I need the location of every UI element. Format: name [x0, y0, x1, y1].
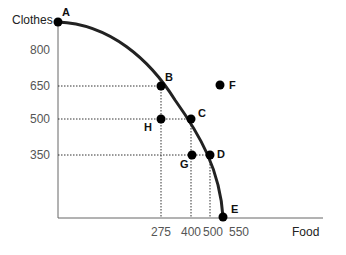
- x-tick-275: 275: [151, 225, 171, 239]
- x-tick-400: 400: [181, 225, 201, 239]
- label-c: C: [198, 107, 206, 119]
- x-tick-550: 550: [229, 225, 249, 239]
- point-e: [219, 213, 228, 222]
- point-f: [216, 81, 225, 90]
- y-tick-350: 350: [30, 148, 50, 162]
- y-axis-title: Clothes: [12, 13, 53, 27]
- x-tick-500: 500: [203, 225, 223, 239]
- guide-lines: [58, 86, 210, 218]
- y-tick-800: 800: [30, 43, 50, 57]
- label-a: A: [62, 6, 70, 18]
- label-b: B: [165, 71, 173, 83]
- label-h: H: [144, 121, 152, 133]
- label-d: D: [217, 148, 225, 160]
- point-g: [188, 151, 197, 160]
- point-a: [54, 18, 63, 27]
- label-g: G: [180, 158, 189, 170]
- ppf-chart: A B C D E F H G 800 650 500 350 275 400 …: [0, 0, 346, 255]
- y-tick-650: 650: [30, 79, 50, 93]
- y-tick-500: 500: [30, 112, 50, 126]
- label-e: E: [231, 203, 238, 215]
- x-axis-title: Food: [292, 225, 319, 239]
- point-d: [206, 151, 215, 160]
- point-h: [157, 115, 166, 124]
- point-c: [187, 115, 196, 124]
- label-f: F: [229, 79, 236, 91]
